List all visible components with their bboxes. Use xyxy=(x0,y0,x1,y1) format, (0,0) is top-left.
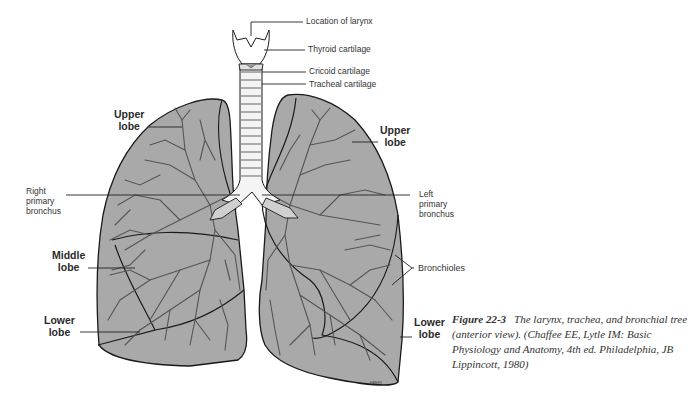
label-middle-lobe: Middle lobe xyxy=(52,249,85,273)
label-right-upper-lobe: Upper lobe xyxy=(114,108,144,132)
figure-number: Figure 22-3 xyxy=(452,313,506,325)
artist-signature: HABER xyxy=(370,381,383,385)
figure-caption: Figure 22-3The larynx, trachea, and bron… xyxy=(452,312,692,372)
label-right-lower-lobe: Lower lobe xyxy=(44,314,75,338)
label-left-upper-lobe: Upper lobe xyxy=(380,124,410,148)
label-cricoid-cartilage: Cricoid cartilage xyxy=(309,66,370,76)
label-thyroid-cartilage: Thyroid cartilage xyxy=(308,44,371,54)
label-left-lower-lobe: Lower lobe xyxy=(414,316,445,340)
label-tracheal-cartilage: Tracheal cartilage xyxy=(309,79,376,89)
label-left-primary-bronchus: Left primary bronchus xyxy=(419,189,454,219)
label-larynx: Location of larynx xyxy=(306,16,373,26)
right-lung xyxy=(97,99,247,366)
label-right-primary-bronchus: Right primary bronchus xyxy=(26,186,61,216)
label-bronchioles: Bronchioles xyxy=(418,263,465,273)
